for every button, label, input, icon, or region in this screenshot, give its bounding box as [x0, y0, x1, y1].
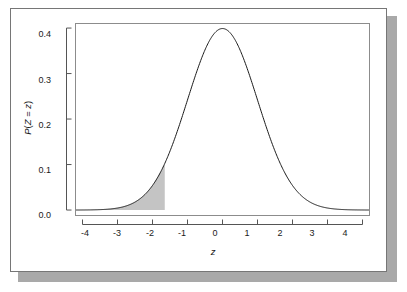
axis-lines — [67, 28, 363, 224]
y-axis-title: P(Z = z) — [23, 86, 33, 150]
x-tick-label: -3 — [105, 229, 129, 238]
density-curve — [76, 29, 370, 210]
y-tick-label: 0.1 — [21, 166, 51, 175]
x-tick-label: 2 — [268, 229, 292, 238]
plot-canvas — [11, 9, 388, 273]
x-tick-label: 4 — [333, 229, 357, 238]
x-axis-title: z — [193, 247, 233, 257]
x-tick-label: -4 — [73, 229, 97, 238]
x-tick-label: 3 — [300, 229, 324, 238]
y-tick-label: 0.4 — [21, 30, 51, 39]
plot-border-box — [76, 24, 370, 216]
x-tick-label: -1 — [170, 229, 194, 238]
figure-frame: 0.0 0.1 0.2 0.3 0.4 -4 -3 -2 -1 0 1 2 3 … — [10, 8, 387, 272]
x-tick-label: 0 — [203, 229, 227, 238]
normal-distribution-chart: 0.0 0.1 0.2 0.3 0.4 -4 -3 -2 -1 0 1 2 3 … — [11, 9, 388, 273]
y-tick-label: 0.3 — [21, 76, 51, 85]
x-tick-label: 1 — [235, 229, 259, 238]
x-tick-label: -2 — [138, 229, 162, 238]
y-tick-label: 0.0 — [21, 211, 51, 220]
